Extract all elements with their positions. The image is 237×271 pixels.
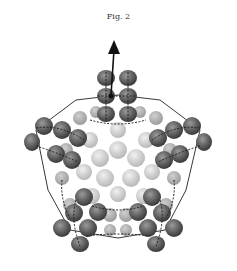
left-vertex-group [24,117,87,169]
right-vertex-group [149,117,212,169]
molecular-structure-diagram [0,0,237,271]
pentagon-frame [36,95,200,238]
